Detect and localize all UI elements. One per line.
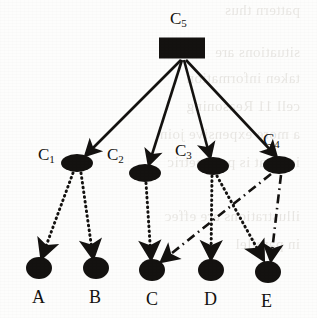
node-label-c3: C3 <box>175 142 192 159</box>
node-label-d: D <box>204 290 217 308</box>
node-label-c1: C1 <box>38 146 55 163</box>
node-c-effect <box>139 259 165 281</box>
node-label-c4: C4 <box>263 131 280 148</box>
node-c4-cause <box>263 156 295 174</box>
edge-c3-to-d <box>211 176 212 258</box>
node-label-e: E <box>261 292 272 310</box>
edge-c4-to-c <box>162 174 271 261</box>
edge-c2-to-c <box>146 183 151 258</box>
edge-c3-to-e <box>217 176 263 259</box>
node-c1-cause <box>61 154 93 172</box>
node-label-a: A <box>32 288 45 306</box>
node-label-c5: C5 <box>170 10 187 27</box>
edge-c1-to-a <box>42 173 73 257</box>
edge-c1-to-b <box>81 173 93 257</box>
figure-canvas: pattern thus situations are taken inform… <box>0 0 317 318</box>
node-c3-cause <box>197 157 229 175</box>
node-c2-cause <box>129 164 161 182</box>
node-e-effect <box>255 261 281 283</box>
node-label-c2: C2 <box>107 146 124 163</box>
node-d-effect <box>198 259 224 281</box>
node-b-effect <box>83 257 109 279</box>
node-label-c: C <box>146 290 158 308</box>
node-c5-cause <box>159 38 205 59</box>
node-layer <box>26 38 295 284</box>
node-label-b: B <box>89 288 101 306</box>
node-a-effect <box>26 257 52 279</box>
edge-c4-to-e <box>271 175 281 260</box>
